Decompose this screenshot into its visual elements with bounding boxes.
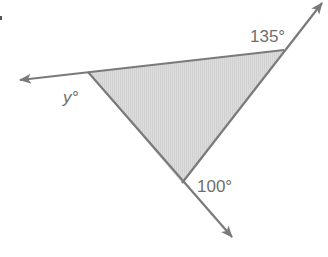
angle-label-y: y° [62,88,79,107]
angle-label-100: 100° [197,177,232,196]
angle-label-135: 135° [250,27,285,46]
stray-mark [0,16,2,20]
triangle-diagram: 135° y° 100° [0,0,328,257]
